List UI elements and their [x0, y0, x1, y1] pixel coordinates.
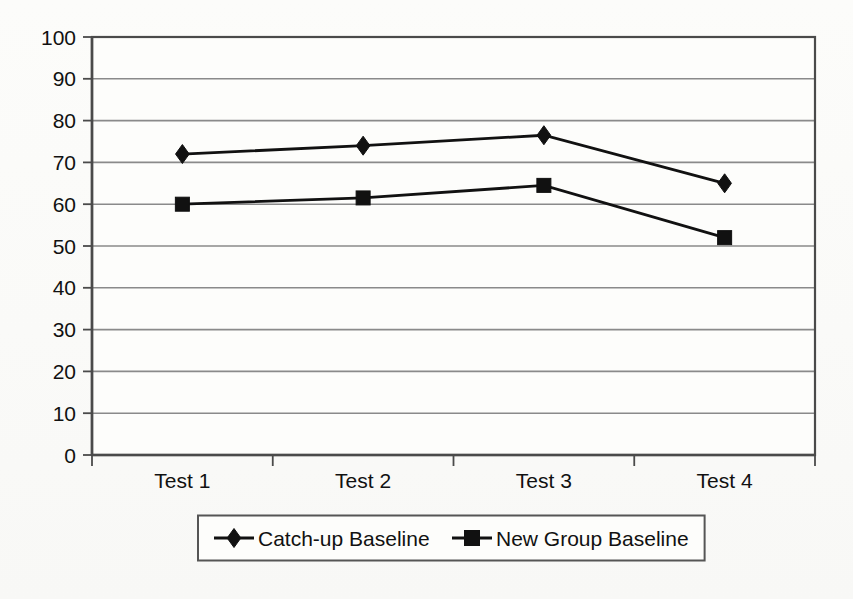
y-tick-label-30: 30 [53, 318, 76, 341]
legend-label-1: Catch-up Baseline [258, 527, 430, 550]
y-tick-label-40: 40 [53, 276, 76, 299]
x-tick-label-4: Test 4 [697, 469, 753, 492]
y-tick-label-10: 10 [53, 402, 76, 425]
data-point-s2-3 [537, 178, 551, 192]
y-tick-label-100: 100 [41, 26, 76, 49]
y-tick-label-60: 60 [53, 193, 76, 216]
y-axis-tick-labels: 0102030405060708090100 [41, 26, 76, 467]
x-tick-label-2: Test 2 [335, 469, 391, 492]
y-tick-label-0: 0 [64, 444, 76, 467]
x-axis-tick-labels: Test 1Test 2Test 3Test 4 [154, 469, 753, 492]
y-tick-label-70: 70 [53, 151, 76, 174]
y-tick-label-80: 80 [53, 109, 76, 132]
x-tick-label-1: Test 1 [154, 469, 210, 492]
chart-legend: Catch-up BaselineNew Group Baseline [198, 516, 705, 561]
data-point-s2-2 [356, 191, 370, 205]
legend-label-2: New Group Baseline [496, 527, 689, 550]
y-tick-label-20: 20 [53, 360, 76, 383]
data-point-s2-4 [718, 231, 732, 245]
x-axis-ticks [92, 455, 815, 466]
y-tick-label-50: 50 [53, 235, 76, 258]
line-chart: 0102030405060708090100 Test 1Test 2Test … [0, 0, 853, 599]
x-tick-label-3: Test 3 [516, 469, 572, 492]
chart-screenshot: 0102030405060708090100 Test 1Test 2Test … [0, 0, 853, 599]
y-tick-label-90: 90 [53, 67, 76, 90]
y-axis-ticks [83, 37, 92, 455]
data-point-s2-1 [175, 197, 189, 211]
square-marker-icon [465, 531, 480, 546]
